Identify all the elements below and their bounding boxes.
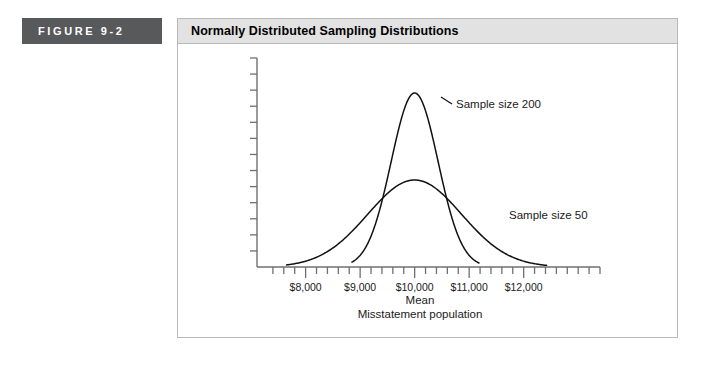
figure-container: FIGURE 9-2 Normally Distributed Sampling… (0, 0, 708, 365)
x-axis-tick-label: $8,000 (290, 281, 322, 293)
x-axis-tick-label: $11,000 (451, 281, 488, 293)
x-axis-caption-mean: Mean (406, 294, 435, 306)
x-axis-tick-label: $9,000 (344, 281, 376, 293)
x-axis-tick-label: $12,000 (505, 281, 543, 293)
page-title: Normally Distributed Sampling Distributi… (191, 24, 459, 38)
figure-number-text: FIGURE 9-2 (38, 25, 125, 37)
figure-title-bar: Normally Distributed Sampling Distributi… (177, 18, 678, 44)
curve-annotation-sample-50: Sample size 50 (509, 209, 588, 221)
figure-number-badge: FIGURE 9-2 (22, 18, 162, 44)
x-axis-caption-population: Misstatement population (358, 308, 483, 320)
x-axis-tick-label: $10,000 (396, 281, 434, 293)
curve-annotation-sample-200: Sample size 200 (456, 98, 541, 110)
